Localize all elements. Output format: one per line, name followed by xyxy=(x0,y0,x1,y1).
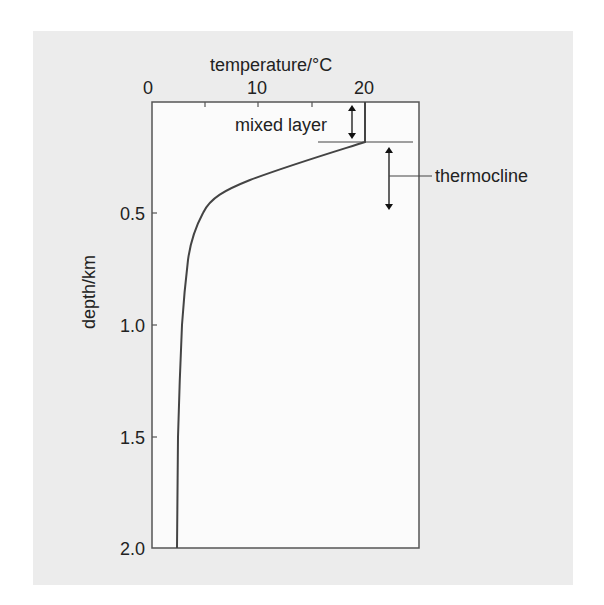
thermocline-label: thermocline xyxy=(435,166,528,186)
x-axis-title: temperature/°C xyxy=(210,55,332,75)
y-tick-label-1.0: 1.0 xyxy=(120,316,145,336)
y-tick-label-2.0: 2.0 xyxy=(120,539,145,559)
x-tick-label-10: 10 xyxy=(247,78,267,98)
y-axis-title: depth/km xyxy=(79,255,99,329)
plot-area xyxy=(152,102,419,548)
y-tick-label-0.5: 0.5 xyxy=(120,204,145,224)
mixed-layer-label: mixed layer xyxy=(235,115,327,135)
x-tick-label-0: 0 xyxy=(143,78,153,98)
temperature-depth-chart: 0 10 20 temperature/°C 0.5 1.0 1.5 2.0 d… xyxy=(0,0,604,605)
y-tick-label-1.5: 1.5 xyxy=(120,428,145,448)
x-tick-label-20: 20 xyxy=(354,78,374,98)
